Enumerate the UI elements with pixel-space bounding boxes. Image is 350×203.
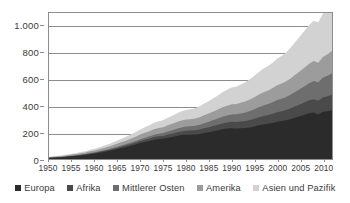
- x-tick-label: 1950: [38, 163, 57, 173]
- legend-swatch-icon: [113, 185, 119, 191]
- x-tick-label: 1960: [84, 163, 103, 173]
- x-tick-label: 1965: [107, 163, 126, 173]
- x-tick-mark: [209, 159, 210, 162]
- x-tick-mark: [186, 159, 187, 162]
- x-tick-label: 2005: [291, 163, 310, 173]
- plot-area: [48, 12, 333, 160]
- y-tick-mark: [40, 106, 44, 107]
- y-tick-label: 600: [23, 74, 39, 85]
- y-tick-label: 800: [23, 47, 39, 58]
- x-tick-mark: [140, 159, 141, 162]
- y-tick-mark: [40, 25, 44, 26]
- legend-swatch-icon: [67, 185, 73, 191]
- legend-label: Amerika: [206, 183, 241, 193]
- x-tick-label: 1955: [61, 163, 80, 173]
- legend-item-amerika[interactable]: Amerika: [197, 183, 241, 193]
- legend-item-europa[interactable]: Europa: [15, 183, 55, 193]
- legend-label: Europa: [24, 183, 55, 193]
- legend-swatch-icon: [15, 185, 21, 191]
- y-tick-mark: [40, 160, 44, 161]
- x-tick-mark: [163, 159, 164, 162]
- x-tick-mark: [324, 159, 325, 162]
- stacked-area-chart: 02004006008001.000 195019551960196519701…: [0, 0, 350, 203]
- x-tick-label: 1985: [199, 163, 218, 173]
- x-tick-mark: [255, 159, 256, 162]
- x-tick-label: 1995: [245, 163, 264, 173]
- x-tick-label: 2000: [268, 163, 287, 173]
- legend-item-asien-und-pazifik[interactable]: Asien und Pazifik: [253, 183, 336, 193]
- x-tick-mark: [117, 159, 118, 162]
- legend-item-mittlerer-osten[interactable]: Mittlerer Osten: [113, 183, 185, 193]
- y-tick-label: 200: [23, 128, 39, 139]
- y-axis: 02004006008001.000: [0, 12, 44, 160]
- x-tick-mark: [94, 159, 95, 162]
- x-tick-label: 1970: [130, 163, 149, 173]
- x-tick-label: 2010: [314, 163, 333, 173]
- legend-label: Afrika: [76, 183, 100, 193]
- x-tick-mark: [71, 159, 72, 162]
- x-tick-label: 1990: [222, 163, 241, 173]
- x-tick-label: 1980: [176, 163, 195, 173]
- x-tick-mark: [278, 159, 279, 162]
- x-tick-mark: [301, 159, 302, 162]
- x-tick-mark: [48, 159, 49, 162]
- legend-item-afrika[interactable]: Afrika: [67, 183, 101, 193]
- y-tick-label: 400: [23, 101, 39, 112]
- y-tick-label: 1.000: [14, 20, 39, 31]
- x-tick-label: 1975: [153, 163, 172, 173]
- y-tick-mark: [40, 133, 44, 134]
- legend-label: Mittlerer Osten: [122, 183, 184, 193]
- chart-legend: EuropaAfrikaMittlerer OstenAmerikaAsien …: [0, 181, 350, 195]
- y-tick-mark: [40, 79, 44, 80]
- legend-swatch-icon: [197, 185, 203, 191]
- x-axis: 1950195519601965197019751980198519901995…: [48, 162, 333, 176]
- legend-label: Asien und Pazifik: [262, 183, 335, 193]
- area-series-group: [49, 13, 332, 159]
- y-tick-mark: [40, 52, 44, 53]
- x-tick-mark: [232, 159, 233, 162]
- legend-swatch-icon: [253, 185, 259, 191]
